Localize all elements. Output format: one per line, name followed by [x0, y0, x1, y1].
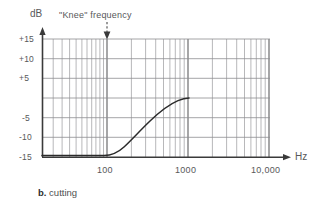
knee-frequency-annotation: "Knee" frequency [59, 11, 132, 20]
knee-annotation-arrowhead [104, 32, 111, 40]
figure-caption-text: cutting [49, 187, 77, 198]
x-axis-label: Hz [295, 152, 307, 162]
y-tick-label-plus10: +10 [19, 55, 34, 64]
x-axis-arrowhead [283, 154, 291, 160]
y-tick-label-minus5: -5 [22, 114, 30, 123]
y-axis-arrowhead [39, 27, 45, 35]
x-tick-label-1000: 1000 [175, 166, 196, 175]
y-tick-label-minus10: -10 [19, 133, 32, 142]
y-axis-label: dB [30, 9, 42, 19]
figure-caption: b. cutting [38, 188, 77, 198]
figure-caption-prefix: b. [38, 187, 46, 198]
frequency-response-chart [0, 0, 325, 206]
x-tick-label-10000: 10,000 [251, 166, 280, 175]
x-tick-label-100: 100 [97, 166, 113, 175]
y-tick-label-minus15: -15 [19, 153, 32, 162]
y-tick-label-plus15: +15 [19, 35, 34, 44]
figure-container: dB "Knee" frequency +15 +10 +5 -5 -10 -1… [0, 0, 325, 206]
y-tick-label-plus5: +5 [19, 74, 29, 83]
